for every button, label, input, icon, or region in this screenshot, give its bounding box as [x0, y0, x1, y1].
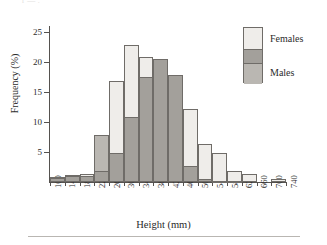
legend-label-females: Females	[270, 34, 303, 44]
x-tick-label: 740	[290, 175, 299, 188]
x-tick	[94, 182, 95, 186]
legend-swatch-males	[244, 64, 262, 84]
bar-overlap	[80, 176, 95, 182]
x-tick	[286, 182, 287, 186]
legend-label-males: Males	[270, 68, 294, 78]
bar-females	[271, 179, 286, 182]
footer-divider	[28, 236, 300, 237]
bar-overlap	[65, 176, 80, 182]
x-tick	[242, 182, 243, 186]
bar-overlap	[139, 77, 154, 182]
y-tick-label-text: 10	[16, 118, 42, 127]
x-tick	[50, 182, 51, 186]
y-tick-label: 5	[10, 148, 42, 157]
bar-overlap	[168, 75, 183, 182]
x-tick	[80, 182, 81, 186]
y-axis-label: Frequency (%)	[9, 29, 20, 139]
x-tick	[153, 182, 154, 186]
bar-females	[198, 144, 213, 182]
bar-overlap	[50, 178, 65, 182]
bar-overlap	[198, 179, 213, 182]
x-tick	[198, 182, 199, 186]
x-tick	[139, 182, 140, 186]
x-tick	[109, 182, 110, 186]
y-tick-label-text: 20	[16, 58, 42, 67]
bar-overlap	[94, 171, 109, 182]
histogram-figure: r — . 510152025 Frequency (%) 1001401802…	[0, 0, 327, 245]
page-bleed-text: r — .	[22, 0, 40, 5]
bar-females	[212, 153, 227, 182]
legend-swatch-overlap	[244, 49, 262, 64]
legend-swatch-stack	[243, 27, 263, 83]
x-tick	[257, 182, 258, 186]
bar-overlap	[227, 181, 242, 183]
x-tick	[168, 182, 169, 186]
y-tick-label-text: 15	[16, 88, 42, 97]
x-tick	[65, 182, 66, 186]
bar-overlap	[212, 181, 227, 183]
y-tick-label-text: 5	[16, 148, 42, 157]
legend-swatch-females	[244, 28, 262, 49]
bar-females	[242, 174, 257, 182]
bar-overlap	[183, 166, 198, 182]
chart-legend: Females Males	[243, 27, 323, 85]
bar-females	[227, 171, 242, 182]
x-tick	[271, 182, 272, 186]
bar-overlap	[153, 59, 168, 182]
bar-overlap	[109, 153, 124, 182]
x-tick	[124, 182, 125, 186]
x-tick	[183, 182, 184, 186]
y-tick-label-text: 25	[16, 28, 42, 37]
bar-overlap	[124, 117, 139, 182]
x-axis-label: Height (mm)	[0, 219, 327, 230]
